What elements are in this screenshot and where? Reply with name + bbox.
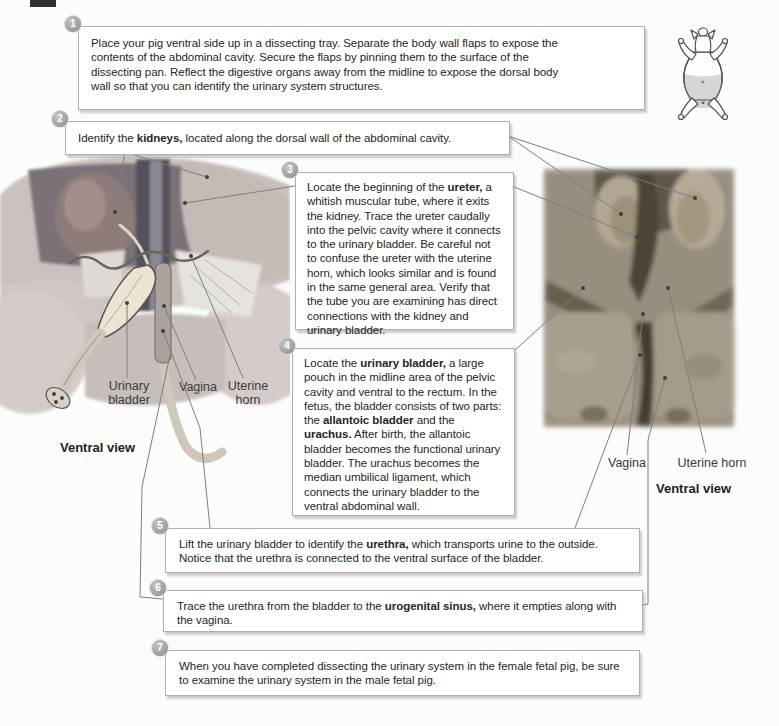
vagina-label-left: Vagina [176,381,220,395]
vagina-label-right: Vagina [604,457,650,471]
step-5-number-badge: 5 [151,517,169,535]
step-4-text: Locate the urinary bladder, a large pouc… [293,349,514,520]
manual-page: 1 Place your pig ventral side up in a di… [0,0,779,726]
step-6-box: 6 Trace the urethra from the bladder to … [163,590,643,632]
step-5-text: Lift the urinary bladder to identify the… [166,529,639,574]
step-7-number-badge: 7 [151,639,169,657]
step-2-number-badge: 2 [51,110,69,128]
step-6-number-badge: 6 [149,579,167,597]
right-figure-caption: Ventral view [656,481,731,496]
pig-ventral-icon [668,26,738,122]
step-3-box: 3 Locate the beginning of the ureter, a … [295,172,514,330]
step-1-box: 1 Place your pig ventral side up in a di… [78,26,645,110]
uterine-horn-label-right: Uterine horn [672,457,752,471]
right-dissection-photo [536,162,742,434]
left-figure-caption: Ventral view [60,440,135,455]
step-2-text: Identify the kidneys, located along the … [66,122,509,154]
left-illustration [0,155,290,470]
uterine-horn-label-left: Uterine horn [220,380,276,407]
step-1-text: Place your pig ventral side up in a diss… [79,27,591,102]
step-1-number-badge: 1 [64,15,82,33]
step-3-text: Locate the beginning of the ureter, a wh… [296,173,513,344]
step-7-text: When you have completed dissecting the u… [166,651,639,696]
step-4-number-badge: 4 [278,337,296,355]
step-5-box: 5 Lift the urinary bladder to identify t… [165,528,640,573]
step-6-text: Trace the urethra from the bladder to th… [164,591,642,636]
step-3-number-badge: 3 [281,161,299,179]
step-7-box: 7 When you have completed dissecting the… [165,650,640,696]
urinary-bladder-label: Urinary bladder [100,380,158,407]
step-4-box: 4 Locate the urinary bladder, a large po… [292,348,515,516]
step-2-box: 2 Identify the kidneys, located along th… [65,121,510,155]
header-fragment [30,0,56,7]
